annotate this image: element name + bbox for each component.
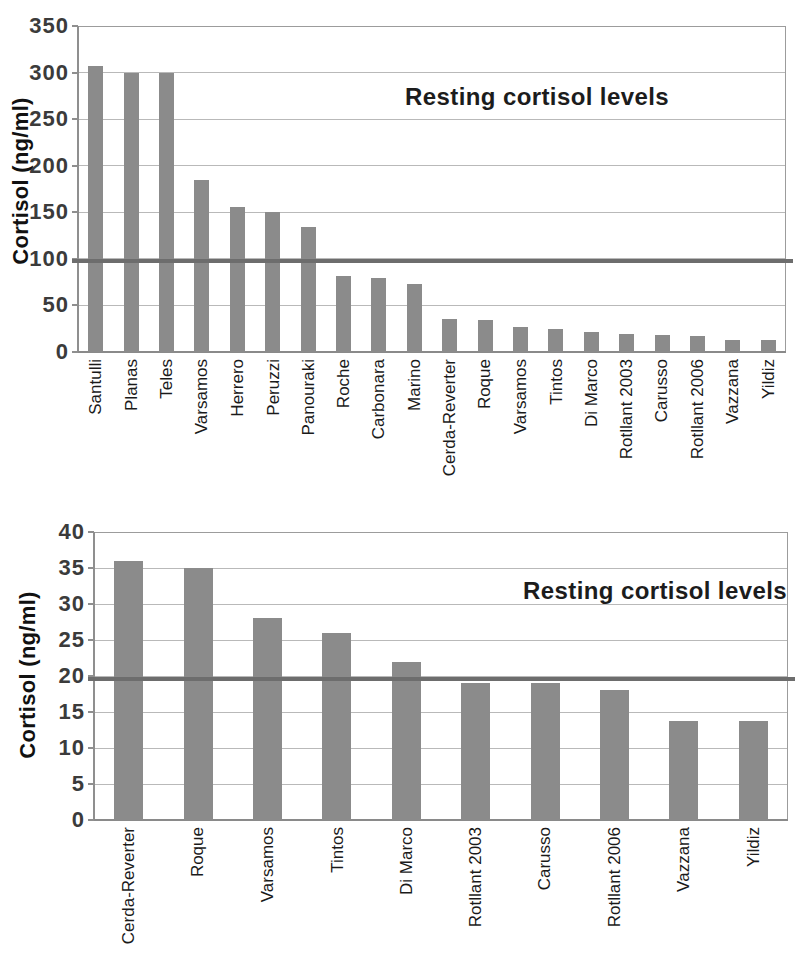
y-tick-label: 15 <box>25 699 85 725</box>
x-category-label-text: Di Marco <box>398 827 415 895</box>
x-category-label-text: Yildiz <box>745 827 762 867</box>
bar <box>392 662 421 820</box>
x-category-label-text: Varsamos <box>259 827 276 902</box>
x-category-label-text: Vazzana <box>675 827 692 892</box>
x-category-label-text: Carusso <box>537 827 554 890</box>
y-tick-label: 35 <box>25 555 85 581</box>
bar <box>253 618 282 820</box>
x-category-label-text: Tintos <box>328 827 345 873</box>
y-tick-label: 40 <box>25 519 85 545</box>
y-tick-label: 0 <box>25 807 85 833</box>
bar <box>531 683 560 820</box>
bar <box>600 690 629 820</box>
y-axis-line <box>93 532 95 820</box>
figure: Resting cortisol levels Cortisol (ng/ml)… <box>0 0 796 972</box>
y-tick-label: 30 <box>25 591 85 617</box>
bar <box>461 683 490 820</box>
bottom-chart: Resting cortisol levels Cortisol (ng/ml)… <box>0 0 796 972</box>
y-tick-label: 10 <box>25 735 85 761</box>
bar <box>184 568 213 820</box>
bar <box>669 721 698 820</box>
reference-line <box>88 677 795 681</box>
bar <box>114 561 143 820</box>
x-category-label-text: Rotllant 2006 <box>606 827 623 927</box>
y-tick-label: 20 <box>25 663 85 689</box>
bar <box>322 633 351 820</box>
y-tick-label: 5 <box>25 771 85 797</box>
bar <box>739 721 768 820</box>
x-category-label-text: Cerda-Reverter <box>120 827 137 944</box>
x-category-label-text: Rotllant 2003 <box>467 827 484 927</box>
y-tick-label: 25 <box>25 627 85 653</box>
x-category-label-text: Roque <box>190 827 207 877</box>
